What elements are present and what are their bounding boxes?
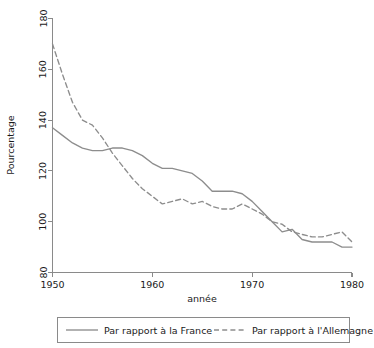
- y-tick-label-140: 140: [38, 111, 49, 129]
- series-line-allemagne: [53, 44, 353, 242]
- x-axis-ticks: 1950 1960 1970 1980: [40, 273, 364, 291]
- chart-legend: Par rapport à la France Par rapport à l'…: [58, 318, 374, 343]
- x-tick-label-1960: 1960: [140, 279, 164, 290]
- y-tick-label-100: 100: [38, 213, 49, 231]
- x-tick-label-1950: 1950: [40, 279, 64, 290]
- y-tick-label-160: 160: [38, 60, 49, 78]
- line-chart: 80 100 120 140 160 180 1950 1960 1970 19…: [0, 0, 374, 348]
- y-axis-ticks: 80 100 120 140 160 180: [38, 9, 53, 278]
- x-tick-label-1970: 1970: [240, 279, 264, 290]
- legend-label-france: Par rapport à la France: [104, 325, 212, 336]
- y-tick-label-180: 180: [38, 9, 49, 27]
- chart-figure: 80 100 120 140 160 180 1950 1960 1970 19…: [0, 0, 374, 348]
- x-axis-title: année: [187, 293, 217, 304]
- x-tick-label-1980: 1980: [340, 279, 364, 290]
- legend-label-allemagne: Par rapport à l'Allemagne: [252, 325, 373, 336]
- series-line-france: [53, 128, 353, 247]
- y-axis-title: Pourcentage: [5, 115, 16, 175]
- y-tick-label-80: 80: [38, 266, 49, 278]
- y-tick-label-120: 120: [38, 162, 49, 180]
